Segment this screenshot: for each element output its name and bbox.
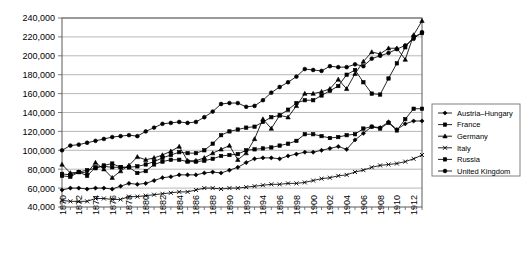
- data-point: [328, 64, 332, 68]
- data-point: [227, 143, 231, 147]
- data-point: [236, 128, 239, 131]
- data-point: [144, 181, 148, 185]
- data-point: [253, 148, 256, 151]
- series-united-kingdom: [60, 30, 424, 152]
- y-axis-label: 180,000: [22, 70, 55, 80]
- data-point: [177, 173, 181, 177]
- data-point: [236, 152, 239, 155]
- data-point: [261, 98, 265, 102]
- data-point: [177, 120, 181, 124]
- data-point: [353, 62, 357, 66]
- legend-label: United Kingdom: [457, 167, 510, 176]
- y-axis-label: 80,000: [27, 165, 55, 175]
- data-point: [161, 160, 164, 163]
- legend-label: Russia: [457, 155, 481, 164]
- data-point: [412, 157, 416, 161]
- data-point: [228, 101, 232, 105]
- data-point: [219, 133, 222, 136]
- data-point: [337, 84, 340, 87]
- data-point: [127, 133, 131, 137]
- data-point: [94, 139, 98, 143]
- data-point: [135, 182, 139, 186]
- data-point: [85, 187, 89, 191]
- data-point: [412, 107, 415, 110]
- data-point: [211, 170, 215, 174]
- data-point: [244, 105, 248, 109]
- data-point: [286, 108, 289, 111]
- data-point: [353, 133, 356, 136]
- data-point: [443, 123, 446, 126]
- data-point: [202, 115, 206, 119]
- data-point: [102, 164, 105, 167]
- data-point: [387, 51, 391, 55]
- data-point: [186, 121, 190, 125]
- data-point: [320, 69, 324, 73]
- x-axis-label: 1892: [242, 195, 252, 215]
- series-line: [62, 32, 422, 150]
- data-point: [420, 30, 424, 34]
- data-point: [144, 163, 147, 166]
- data-point: [395, 47, 399, 51]
- data-point: [135, 134, 139, 138]
- data-point: [169, 149, 173, 153]
- x-axis-label: 1890: [225, 195, 235, 215]
- data-point: [387, 121, 390, 124]
- x-axis-label: 1908: [376, 195, 386, 215]
- data-point: [303, 150, 307, 154]
- data-point: [286, 80, 290, 84]
- data-point: [169, 158, 172, 161]
- data-point: [311, 68, 315, 72]
- data-point: [395, 129, 398, 132]
- legend-label: France: [457, 120, 480, 129]
- data-point: [261, 147, 264, 150]
- data-point: [404, 117, 407, 120]
- y-axis-label: 140,000: [22, 108, 55, 118]
- data-point: [270, 146, 273, 149]
- line-chart: 240,000220,000200,000180,000160,000140,0…: [0, 0, 528, 260]
- data-point: [295, 139, 298, 142]
- data-point: [93, 160, 97, 164]
- data-point: [253, 104, 257, 108]
- data-point: [219, 102, 223, 106]
- data-point: [110, 187, 114, 191]
- x-axis-label: 1884: [175, 195, 185, 215]
- data-point: [345, 65, 349, 69]
- data-point: [194, 120, 198, 124]
- data-point: [211, 142, 214, 145]
- data-point: [161, 156, 164, 159]
- x-axis-label: 1894: [258, 195, 268, 215]
- data-point: [252, 137, 256, 141]
- data-point: [77, 186, 81, 190]
- data-point: [370, 50, 374, 54]
- y-axis-label: 200,000: [22, 51, 55, 61]
- data-point: [135, 155, 139, 159]
- legend-label: Germany: [457, 132, 488, 141]
- data-point: [169, 153, 172, 156]
- data-point: [311, 150, 315, 154]
- data-point: [68, 144, 72, 148]
- data-point: [60, 148, 64, 152]
- data-point: [295, 75, 299, 79]
- data-point: [286, 154, 290, 158]
- data-point: [69, 173, 72, 176]
- x-axis-label: 1872: [74, 195, 84, 215]
- data-point: [68, 186, 72, 190]
- chart-legend: Austria–HungaryFranceGermanyItalyRussiaU…: [432, 104, 520, 176]
- data-point: [361, 64, 365, 68]
- data-point: [336, 144, 340, 148]
- data-point: [85, 141, 89, 145]
- data-point: [387, 77, 390, 80]
- data-point: [236, 101, 240, 105]
- data-point: [253, 125, 256, 128]
- data-point: [178, 158, 181, 161]
- data-point: [202, 156, 206, 160]
- data-point: [60, 188, 64, 192]
- data-point: [252, 157, 256, 161]
- data-point: [161, 122, 165, 126]
- x-axis-label: 1898: [292, 195, 302, 215]
- x-axis-label: 1904: [342, 195, 352, 215]
- x-axis-label: 1876: [108, 195, 118, 215]
- x-axis-label: 1902: [325, 195, 335, 215]
- data-point: [219, 154, 222, 157]
- data-point: [353, 68, 356, 71]
